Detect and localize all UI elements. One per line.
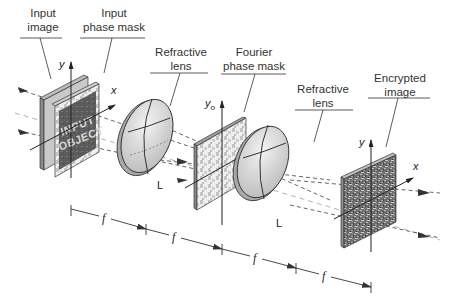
arrow-icon (18, 129, 29, 135)
label-refractive-lens-2: Refractive lens (295, 83, 353, 142)
output-x-label: x (412, 160, 419, 172)
label-fourier-phase-mask: Fourier phase mask (221, 46, 286, 112)
svg-text:lens: lens (170, 60, 191, 72)
refractive-lens-1: L (107, 92, 182, 191)
focal-length-dimension: f f f f (71, 205, 371, 293)
dimension-f-4: f (322, 269, 327, 283)
svg-text:Refractive: Refractive (155, 46, 207, 58)
svg-text:Refractive: Refractive (297, 83, 349, 95)
svg-text:Input: Input (30, 7, 56, 19)
output-y-label: y (358, 136, 366, 148)
arrow-icon (177, 178, 188, 183)
dimension-f-2: f (172, 230, 177, 244)
input-y-label: y (58, 58, 66, 70)
svg-text:Input: Input (101, 7, 127, 19)
svg-text:image: image (27, 21, 58, 33)
optical-encryption-diagram: INPUT OBJECT y x L yo xo L (0, 0, 455, 302)
svg-text:Fourier: Fourier (236, 46, 273, 58)
arrow-icon (418, 189, 430, 196)
svg-text:lens: lens (312, 97, 333, 109)
svg-text:Encrypted: Encrypted (374, 72, 426, 84)
svg-text:phase mask: phase mask (223, 60, 285, 72)
label-encrypted-image: Encrypted image (368, 72, 430, 147)
label-input-phase-mask: Input phase mask (80, 7, 145, 73)
encrypted-image-plate (341, 153, 396, 248)
svg-text:phase mask: phase mask (83, 21, 145, 33)
arrow-icon (177, 158, 188, 165)
lens-2-focal-label: L (276, 217, 282, 229)
label-refractive-lens-1: Refractive lens (150, 46, 208, 106)
lens-1-focal-label: L (157, 179, 163, 191)
label-input-image: Input image (20, 7, 62, 79)
fourier-y-label: yo (204, 97, 216, 112)
svg-text:image: image (384, 86, 415, 98)
dimension-f-1: f (102, 211, 107, 225)
input-x-label: x (110, 84, 117, 96)
dimension-f-3: f (253, 251, 258, 265)
